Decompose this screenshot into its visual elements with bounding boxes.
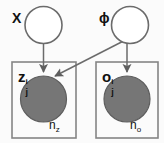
node-z-label: zij [18, 69, 31, 84]
plate-z-count-subscript: z [56, 125, 60, 134]
node-chi-label: X [12, 11, 21, 25]
plate-o-count-base: n [130, 118, 137, 132]
node-o-base: o [102, 68, 111, 85]
node-o-subscript: j [111, 88, 114, 97]
plate-o-count-subscript: o [137, 125, 141, 134]
node-o-superscript: i [111, 78, 113, 86]
node-o-label: oij [102, 69, 116, 84]
plate-z-count-base: n [49, 118, 56, 132]
node-z-base: z [18, 68, 26, 85]
node-z-superscript: i [26, 78, 28, 86]
plate-notation-diagram: X ϕ zij oij nz no [0, 0, 164, 143]
node-z-subscript: j [26, 88, 29, 97]
node-phi-label: ϕ [99, 11, 110, 25]
node-chi-circle [25, 7, 62, 44]
plate-z-count-label: nz [49, 119, 60, 134]
plate-o-count-label: no [130, 119, 141, 134]
node-phi-circle [112, 7, 149, 44]
